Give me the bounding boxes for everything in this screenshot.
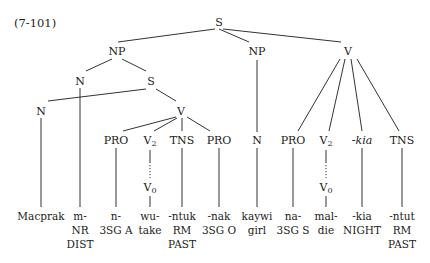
leaf-ntut: -ntutRMPAST <box>388 209 416 251</box>
node-pro-3: PRO <box>281 135 306 147</box>
node-v0-1: V0 <box>143 182 156 197</box>
node-s-inner: S <box>147 76 155 88</box>
node-v-right: V <box>344 46 352 58</box>
example-number: (7-101) <box>14 16 56 30</box>
node-n-upper: N <box>75 76 85 88</box>
node-np-left: NP <box>108 46 125 58</box>
leaf-mal: mal-die <box>314 209 337 237</box>
node-tns-1: TNS <box>170 135 195 147</box>
leaf-m: m-NRDIST <box>67 209 94 251</box>
leaf-ntuk: -ntukRMPAST <box>168 209 196 251</box>
node-pro-2: PRO <box>207 135 232 147</box>
node-tns-2: TNS <box>390 135 415 147</box>
leaf-nak: -nak3SG O <box>202 209 236 237</box>
node-v2-2: V2 <box>319 135 332 150</box>
node-n-lower: N <box>36 106 46 118</box>
leaf-wu: wu-take <box>138 209 161 237</box>
node-v0-2: V0 <box>319 182 332 197</box>
node-n-middle: N <box>252 135 262 147</box>
node-kia: -kia <box>352 135 372 147</box>
leaf-n: n-3SG A <box>99 209 132 237</box>
node-pro-1: PRO <box>104 135 129 147</box>
node-np-middle: NP <box>248 46 265 58</box>
node-v2-1: V2 <box>143 135 156 150</box>
node-s-root: S <box>215 17 223 29</box>
leaf-kaywi: kaywigirl <box>242 209 273 237</box>
leaf-kia: -kiaNIGHT <box>343 209 381 237</box>
node-v-inner: V <box>177 106 185 118</box>
leaf-macprak: Macprak <box>17 209 64 223</box>
leaf-na: na-3SG S <box>277 209 310 237</box>
